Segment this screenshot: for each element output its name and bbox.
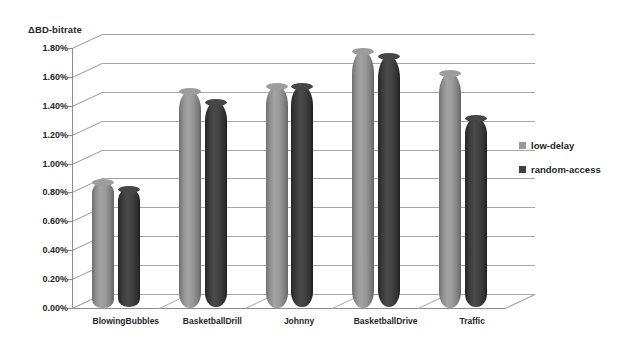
y-tick-label: 1.60% xyxy=(42,72,68,82)
y-tick-label: 1.20% xyxy=(42,130,68,140)
y-tick-label: 1.80% xyxy=(42,43,68,53)
y-tick-label: 0.80% xyxy=(42,187,68,197)
bar-low-delay-Traffic xyxy=(439,73,461,308)
gridline-depth xyxy=(72,63,102,78)
x-axis-line xyxy=(72,308,505,309)
bar-top-cap xyxy=(352,48,374,55)
gridline xyxy=(102,34,535,35)
bar-random-access-BasketballDrill xyxy=(205,102,227,307)
bar-random-access-Traffic xyxy=(465,118,487,307)
chart-legend: low-delayrandom-access xyxy=(519,140,601,188)
y-tick-label: 1.00% xyxy=(42,159,68,169)
x-tick-label-Traffic: Traffic xyxy=(459,316,485,326)
legend-item-random-access[interactable]: random-access xyxy=(519,164,601,175)
legend-label: random-access xyxy=(531,164,601,175)
bar-top-cap xyxy=(179,88,201,95)
gridline xyxy=(102,92,535,93)
legend-swatch-icon xyxy=(519,142,526,149)
legend-item-low-delay[interactable]: low-delay xyxy=(519,140,601,151)
bar-top-cap xyxy=(266,83,288,90)
legend-label: low-delay xyxy=(531,140,574,151)
y-tick-label: 0.40% xyxy=(42,245,68,255)
bar-random-access-BasketballDrive xyxy=(378,56,400,307)
bar-low-delay-BlowingBubbles xyxy=(92,182,114,308)
gridline-depth xyxy=(72,150,102,165)
x-tick-label-BasketballDrive: BasketballDrive xyxy=(354,316,418,326)
gridline-depth xyxy=(72,121,102,136)
y-tick-label: 0.60% xyxy=(42,216,68,226)
y-tick-label: 1.40% xyxy=(42,101,68,111)
x-tick-label-BlowingBubbles: BlowingBubbles xyxy=(93,316,160,326)
bar-low-delay-Johnny xyxy=(266,86,288,308)
floor-side-edge xyxy=(505,294,535,309)
bar-top-cap xyxy=(465,115,487,122)
bar-random-access-Johnny xyxy=(291,86,313,307)
y-axis-ticks: 1.80%1.60%1.40%1.20%1.00%0.80%0.60%0.40%… xyxy=(16,0,68,346)
legend-swatch-icon xyxy=(519,166,526,173)
y-tick-label: 0.20% xyxy=(42,274,68,284)
bar-top-cap xyxy=(92,179,114,186)
x-tick-label-BasketballDrill: BasketballDrill xyxy=(183,316,242,326)
gridline xyxy=(102,63,535,64)
bar-top-cap xyxy=(118,186,140,193)
x-tick-label-Johnny: Johnny xyxy=(284,316,314,326)
bar-top-cap xyxy=(205,99,227,106)
bar-top-cap xyxy=(439,70,461,77)
bar-chart: ΔBD-bitrate 1.80%1.60%1.40%1.20%1.00%0.8… xyxy=(0,0,637,346)
bar-low-delay-BasketballDrive xyxy=(352,51,374,308)
gridline-depth xyxy=(72,34,102,49)
y-tick-label: 0.00% xyxy=(42,303,68,313)
y-axis-line xyxy=(72,48,73,308)
gridline-depth xyxy=(72,92,102,107)
bar-low-delay-BasketballDrill xyxy=(179,91,201,308)
bar-random-access-BlowingBubbles xyxy=(118,189,140,307)
bar-top-cap xyxy=(378,53,400,60)
bar-top-cap xyxy=(291,83,313,90)
